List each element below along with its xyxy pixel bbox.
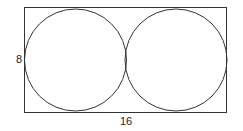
width-label: 16 — [120, 115, 132, 127]
diagram-canvas: 8 16 — [0, 0, 243, 131]
right-circle — [125, 9, 227, 111]
left-circle — [25, 9, 127, 111]
height-label: 8 — [16, 53, 22, 65]
